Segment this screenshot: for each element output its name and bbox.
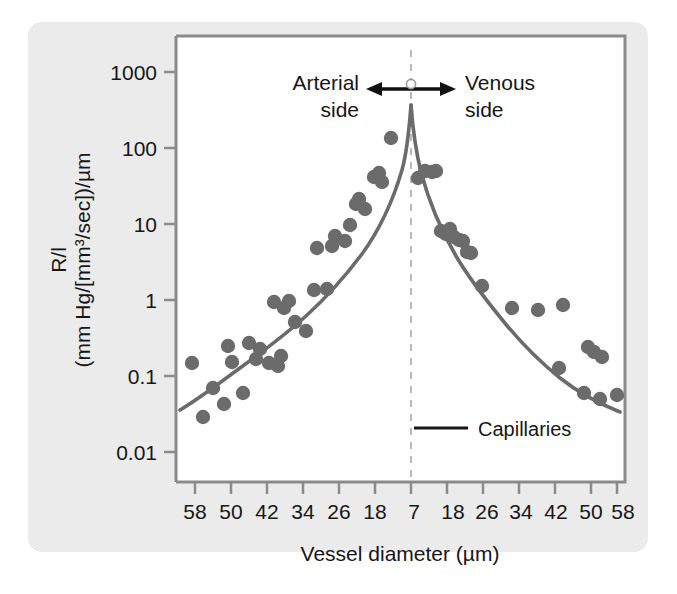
data-point xyxy=(253,342,267,356)
x-tick-label: 18 xyxy=(363,500,386,523)
data-point xyxy=(531,303,545,317)
data-point xyxy=(429,164,443,178)
data-point xyxy=(299,324,313,338)
y-tick-label: 10 xyxy=(134,213,157,236)
data-point xyxy=(475,279,489,293)
x-tick-label: 42 xyxy=(544,500,567,523)
x-tick-label: 7 xyxy=(408,500,420,523)
data-point xyxy=(358,202,372,216)
capillary-marker-circle xyxy=(406,79,415,88)
y-tick-label: 1000 xyxy=(110,61,157,84)
venous-label-line1: Venous xyxy=(465,71,535,94)
data-point xyxy=(320,282,334,296)
data-point xyxy=(236,386,250,400)
x-tick-label: 50 xyxy=(579,500,602,523)
data-point xyxy=(338,234,352,248)
x-tick-label: 18 xyxy=(441,500,464,523)
x-axis-ticks xyxy=(195,482,617,494)
x-tick-label: 34 xyxy=(509,500,533,523)
y-axis-title-line1: R/l xyxy=(47,247,70,273)
chart-svg: 1000 100 10 1 0.1 0.01 58 50 xyxy=(0,0,677,594)
data-point xyxy=(384,131,398,145)
data-point xyxy=(556,298,570,312)
figure-container: 1000 100 10 1 0.1 0.01 58 50 xyxy=(0,0,677,594)
y-tick-label: 100 xyxy=(122,137,157,160)
arterial-label-line1: Arterial xyxy=(292,71,359,94)
x-tick-label: 26 xyxy=(327,500,350,523)
data-point xyxy=(464,246,478,260)
x-tick-label: 26 xyxy=(475,500,498,523)
venous-label-line2: side xyxy=(465,98,504,121)
x-tick-label: 58 xyxy=(611,500,634,523)
data-point xyxy=(593,392,607,406)
plot-area xyxy=(176,36,625,482)
data-point xyxy=(610,388,624,402)
data-point xyxy=(375,175,389,189)
y-tick-label: 0.1 xyxy=(128,365,157,388)
y-axis-title-line2: (mm Hg/[mm³/sec])/µm xyxy=(71,152,94,367)
legend-label-capillaries: Capillaries xyxy=(478,418,571,440)
data-point xyxy=(185,356,199,370)
data-point xyxy=(343,218,357,232)
data-point xyxy=(310,241,324,255)
data-point xyxy=(505,301,519,315)
data-point xyxy=(221,339,235,353)
y-axis-ticks xyxy=(164,72,176,452)
y-tick-label: 0.01 xyxy=(116,441,157,464)
x-tick-label: 50 xyxy=(219,500,242,523)
data-point xyxy=(196,410,210,424)
arterial-label-line2: side xyxy=(320,98,359,121)
data-point xyxy=(225,355,239,369)
x-tick-label: 42 xyxy=(255,500,278,523)
x-tick-label: 34 xyxy=(291,500,315,523)
data-point xyxy=(595,350,609,364)
y-axis-tick-labels: 1000 100 10 1 0.1 0.01 xyxy=(110,61,157,464)
data-point xyxy=(206,381,220,395)
data-point xyxy=(274,349,288,363)
x-tick-label: 58 xyxy=(183,500,206,523)
data-point xyxy=(217,397,231,411)
x-axis-title: Vessel diameter (µm) xyxy=(301,542,500,565)
x-axis-tick-labels: 58 50 42 34 26 18 7 18 26 34 42 50 58 xyxy=(183,500,634,523)
data-point xyxy=(282,294,296,308)
y-tick-label: 1 xyxy=(145,289,157,312)
data-point xyxy=(552,361,566,375)
data-point xyxy=(307,283,321,297)
data-point xyxy=(577,386,591,400)
